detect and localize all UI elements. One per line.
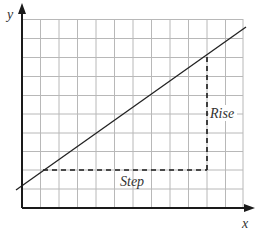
y-axis-arrow-icon [18, 3, 26, 14]
slope-diagram: y x Rise Step [0, 0, 261, 233]
x-axis-arrow-icon [244, 204, 255, 212]
x-axis-label: x [241, 216, 249, 231]
y-axis-label: y [5, 7, 14, 22]
rise-label: Rise [209, 106, 234, 121]
step-label: Step [120, 174, 144, 189]
